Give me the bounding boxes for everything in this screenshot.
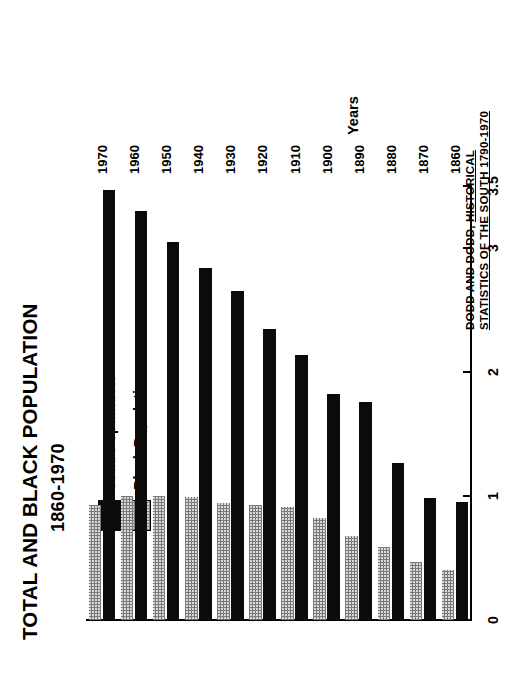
value-tick bbox=[463, 371, 472, 373]
bar-total-population bbox=[263, 329, 276, 620]
source-underline-2: STATISTICS OF THE SOUTH 1790-1970 bbox=[478, 111, 490, 330]
chart-title: TOTAL AND BLACK POPULATION bbox=[18, 303, 42, 640]
bar-black-population bbox=[217, 503, 230, 620]
bar-black-population bbox=[281, 507, 294, 620]
category-label: 1880 bbox=[383, 145, 398, 174]
bar-total-population bbox=[424, 498, 437, 620]
source-line-1: DODD AND DODD, HISTORICAL bbox=[463, 111, 477, 330]
bar-black-population bbox=[313, 518, 326, 620]
bar-black-population bbox=[410, 562, 423, 620]
chart-subtitle: 1860-1970 bbox=[48, 443, 69, 532]
category-label: 1890 bbox=[351, 145, 366, 174]
value-tick bbox=[463, 495, 472, 497]
rotated-page-wrapper: TOTAL AND BLACK POPULATION 1860-1970 Tot… bbox=[0, 0, 525, 682]
category-label: 1910 bbox=[287, 145, 302, 174]
bar-black-population bbox=[249, 505, 262, 620]
source-underline-1: HISTORICAL bbox=[464, 150, 476, 222]
value-tick-label: 0 bbox=[485, 616, 501, 624]
category-label: 1950 bbox=[159, 145, 174, 174]
bar-total-population bbox=[199, 268, 212, 620]
bar-total-population bbox=[103, 190, 116, 620]
category-label: 1970 bbox=[95, 145, 110, 174]
bar-total-population bbox=[456, 502, 469, 620]
category-label: 1860 bbox=[447, 145, 462, 174]
plot-area: 01233.5 18601870188018901900191019201930… bbox=[86, 186, 471, 620]
chart-figure: TOTAL AND BLACK POPULATION 1860-1970 Tot… bbox=[0, 0, 525, 682]
bar-black-population bbox=[345, 536, 358, 620]
category-label: 1940 bbox=[191, 145, 206, 174]
bar-total-population bbox=[295, 355, 308, 620]
bar-total-population bbox=[167, 242, 180, 620]
bar-total-population bbox=[327, 394, 340, 620]
source-line-2: STATISTICS OF THE SOUTH 1790-1970 bbox=[477, 111, 491, 330]
category-label: 1870 bbox=[415, 145, 430, 174]
bar-black-population bbox=[89, 505, 102, 620]
category-label: 1920 bbox=[255, 145, 270, 174]
bar-black-population bbox=[185, 497, 198, 620]
category-label: 1900 bbox=[319, 145, 334, 174]
bar-total-population bbox=[135, 211, 148, 620]
bar-black-population bbox=[378, 547, 391, 620]
value-tick-label: 2 bbox=[485, 368, 501, 376]
bar-black-population bbox=[121, 496, 134, 620]
value-tick-label: 1 bbox=[485, 492, 501, 500]
bar-total-population bbox=[392, 463, 405, 620]
source-citation: DODD AND DODD, HISTORICAL STATISTICS OF … bbox=[463, 111, 491, 330]
category-label: 1960 bbox=[127, 145, 142, 174]
bar-black-population bbox=[442, 570, 455, 620]
bar-total-population bbox=[231, 291, 244, 620]
bar-black-population bbox=[153, 496, 166, 620]
bar-total-population bbox=[359, 402, 372, 620]
source-prefix: DODD AND DODD, bbox=[464, 222, 476, 330]
category-label: 1930 bbox=[223, 145, 238, 174]
category-axis-title: Years bbox=[345, 96, 361, 135]
